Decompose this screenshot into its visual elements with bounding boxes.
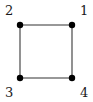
graph-node [17, 75, 23, 81]
vertex-label-2: 2 [5, 4, 13, 17]
graph-figure: 1234 [0, 0, 93, 102]
graph-node [69, 75, 75, 81]
graph-node [17, 22, 23, 28]
vertex-label-1: 1 [80, 4, 88, 17]
node-layer [17, 22, 75, 81]
vertex-label-4: 4 [80, 86, 88, 99]
graph-node [69, 22, 75, 28]
edge-layer [20, 25, 72, 78]
vertex-label-3: 3 [5, 86, 13, 99]
